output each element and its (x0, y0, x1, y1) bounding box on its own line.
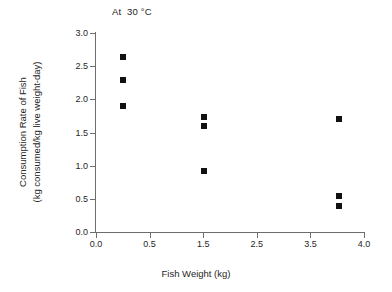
x-tick-mark (150, 233, 151, 238)
y-tick-mark (90, 66, 95, 67)
y-tick-label: 3.0 (62, 28, 88, 38)
data-point-marker (201, 114, 207, 120)
scatter-chart: At 30 °C 0.00.51.01.52.02.53.0 0.00.51.5… (0, 0, 392, 292)
x-axis-title: Fish Weight (kg) (0, 268, 392, 279)
y-axis-title: Consumption Rate of Fish (kg consumed/kg… (16, 17, 44, 247)
x-tick-mark (310, 233, 311, 238)
x-tick-label: 1.5 (197, 239, 210, 249)
chart-title: At 30 °C (112, 6, 152, 17)
data-point-marker (336, 203, 342, 209)
y-tick-mark (90, 133, 95, 134)
y-axis-title-line-2: (kg consumed/kg live weight-day) (30, 17, 44, 247)
x-tick-mark (96, 233, 97, 238)
data-point-marker (336, 116, 342, 122)
x-tick-label: 2.5 (251, 239, 264, 249)
x-axis-line (95, 232, 365, 233)
y-axis-title-line-1: Consumption Rate of Fish (16, 17, 30, 247)
y-tick-label: 1.5 (62, 128, 88, 138)
y-tick-mark (90, 99, 95, 100)
y-axis-line (95, 32, 96, 233)
x-tick-mark (364, 233, 365, 238)
x-tick-label: 3.5 (304, 239, 317, 249)
data-point-marker (201, 123, 207, 129)
y-tick-mark (90, 232, 95, 233)
data-point-marker (120, 54, 126, 60)
y-tick-label: 0.0 (62, 227, 88, 237)
x-tick-label: 0.5 (143, 239, 156, 249)
y-tick-label: 0.5 (62, 194, 88, 204)
x-tick-label: 0.0 (90, 239, 103, 249)
y-tick-mark (90, 33, 95, 34)
data-point-marker (201, 168, 207, 174)
data-point-marker (120, 77, 126, 83)
x-tick-mark (203, 233, 204, 238)
x-tick-label: 4.0 (358, 239, 371, 249)
x-tick-mark (257, 233, 258, 238)
data-point-marker (120, 103, 126, 109)
y-tick-label: 2.5 (62, 61, 88, 71)
y-tick-label: 2.0 (62, 94, 88, 104)
data-point-marker (336, 193, 342, 199)
y-tick-label: 1.0 (62, 161, 88, 171)
y-tick-mark (90, 199, 95, 200)
y-tick-mark (90, 166, 95, 167)
